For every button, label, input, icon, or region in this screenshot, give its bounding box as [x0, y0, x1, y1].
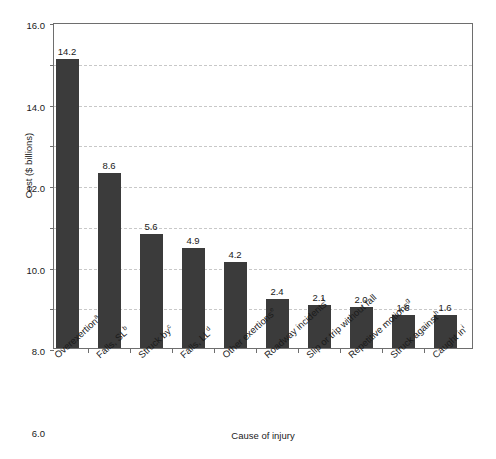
bar-value-label: 4.2 [228, 249, 241, 260]
y-tick-label: 6.0 [32, 427, 45, 438]
y-tick-label: 10.0 [27, 264, 46, 275]
y-tick-label: 16.0 [27, 20, 46, 31]
y-axis-title: Cost ($ billions) [23, 96, 34, 236]
y-tick-label: 12.0 [27, 183, 46, 194]
cut-off-caption [14, 0, 484, 1]
bar-value-label: 4.9 [186, 235, 199, 246]
bar: 14.2 [56, 59, 79, 348]
y-tick-label: 8.0 [32, 346, 45, 357]
chart-figure: Cost ($ billions) 0.02.04.06.08.010.012.… [0, 0, 496, 459]
bar-value-label: 14.2 [58, 46, 77, 57]
y-tick-label: 14.0 [27, 101, 46, 112]
x-axis-title: Cause of injury [53, 430, 473, 441]
x-axis-category-labels: OverexertionaFalls, SLbStruck bycFalls, … [53, 352, 483, 432]
bar-value-label: 8.6 [102, 160, 115, 171]
bar-value-label: 5.6 [144, 221, 157, 232]
bar-value-label: 2.4 [270, 286, 283, 297]
bar-value-label: 1.6 [438, 302, 451, 313]
